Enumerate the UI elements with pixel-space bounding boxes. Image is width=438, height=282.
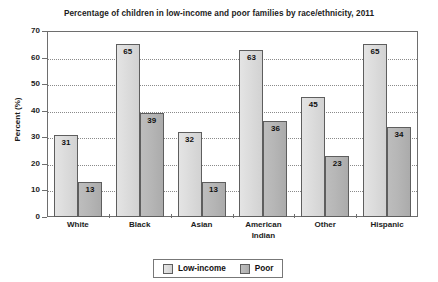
y-tick-mark — [42, 217, 47, 218]
bar-value-label: 45 — [302, 100, 324, 109]
bar-group: 4523 — [294, 31, 356, 217]
y-tick-label: 30 — [12, 132, 40, 141]
bar-poor: 13 — [78, 182, 102, 217]
bar-value-label: 36 — [264, 124, 286, 133]
bar-poor: 39 — [140, 113, 164, 217]
legend-swatch-low-income — [163, 264, 173, 274]
x-tick-label: Other — [294, 220, 356, 231]
x-tick-mark — [294, 214, 295, 218]
legend-label: Poor — [255, 264, 274, 273]
chart-legend: Low-incomePoor — [153, 259, 283, 278]
x-tick-mark — [171, 214, 172, 218]
bar-chart-figure: Percentage of children in low-income and… — [0, 0, 438, 282]
bar-poor: 36 — [263, 121, 287, 217]
bar-poor: 23 — [325, 156, 349, 217]
bar-group: 6336 — [233, 31, 295, 217]
bar-low-income: 32 — [178, 132, 202, 217]
bar-value-label: 32 — [179, 135, 201, 144]
bar-low-income: 63 — [239, 50, 263, 217]
bar-value-label: 13 — [79, 185, 101, 194]
bars-layer: 311365393213633645236534 — [47, 31, 418, 217]
y-tick-label: 50 — [12, 79, 40, 88]
x-tick-mark — [109, 214, 110, 218]
y-tick-label: 40 — [12, 106, 40, 115]
bar-low-income: 45 — [301, 97, 325, 217]
bar-value-label: 65 — [117, 47, 139, 56]
bar-group: 6534 — [356, 31, 418, 217]
x-tick-mark — [233, 214, 234, 218]
y-tick-label: 70 — [12, 26, 40, 35]
bar-value-label: 13 — [203, 185, 225, 194]
bar-value-label: 39 — [141, 116, 163, 125]
legend-swatch-poor — [240, 264, 250, 274]
bar-value-label: 65 — [364, 47, 386, 56]
legend-entry: Low-income — [163, 264, 226, 274]
y-tick-label: 20 — [12, 159, 40, 168]
bar-value-label: 63 — [240, 53, 262, 62]
bar-poor: 34 — [387, 127, 411, 217]
bar-group: 3213 — [171, 31, 233, 217]
bar-low-income: 31 — [54, 135, 78, 217]
bar-group: 3113 — [47, 31, 109, 217]
y-tick-label: 10 — [12, 185, 40, 194]
bar-value-label: 34 — [388, 130, 410, 139]
bar-low-income: 65 — [116, 44, 140, 217]
x-axis-labels: WhiteBlackAsianAmericanIndianOtherHispan… — [47, 220, 418, 256]
x-tick-label: AmericanIndian — [233, 220, 295, 241]
bar-value-label: 31 — [55, 138, 77, 147]
legend-entry: Poor — [240, 264, 274, 274]
bar-group: 6539 — [109, 31, 171, 217]
y-axis-title: Percent (%) — [13, 80, 22, 160]
x-tick-label: White — [47, 220, 109, 231]
y-tick-label: 60 — [12, 53, 40, 62]
y-tick-label: 0 — [12, 212, 40, 221]
x-tick-label: Hispanic — [356, 220, 418, 231]
bar-poor: 13 — [202, 182, 226, 217]
legend-label: Low-income — [178, 264, 226, 273]
x-tick-label: Black — [109, 220, 171, 231]
bar-low-income: 65 — [363, 44, 387, 217]
x-tick-label: Asian — [171, 220, 233, 231]
chart-title: Percentage of children in low-income and… — [0, 9, 438, 18]
x-tick-mark — [356, 214, 357, 218]
bar-value-label: 23 — [326, 159, 348, 168]
